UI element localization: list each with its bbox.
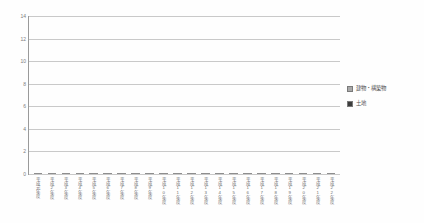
x-axis-tick-cell: 平成22年度 [324, 177, 338, 223]
x-axis-tick-cell: 平成11年度 [170, 177, 184, 223]
bar-column[interactable] [324, 16, 338, 174]
bar-segment-buildings[interactable] [62, 173, 71, 174]
bar-stack[interactable] [187, 173, 196, 174]
bar-stack[interactable] [313, 173, 322, 174]
bar-stack[interactable] [327, 173, 336, 174]
bar-stack[interactable] [117, 173, 126, 174]
bar-segment-buildings[interactable] [243, 173, 252, 174]
x-axis-tick-label: 平成2年度 [49, 177, 54, 198]
bar-column[interactable] [143, 16, 157, 174]
bar-column[interactable] [198, 16, 212, 174]
bar-column[interactable] [254, 16, 268, 174]
gridline [29, 174, 340, 175]
x-axis-tick-label: 平成8年度 [133, 177, 138, 198]
x-axis-tick-cell: 平成9年度 [142, 177, 156, 223]
bar-segment-buildings[interactable] [299, 173, 308, 174]
bar-column[interactable] [184, 16, 198, 174]
bar-column[interactable] [129, 16, 143, 174]
bar-segment-buildings[interactable] [257, 173, 266, 174]
bar-column[interactable] [157, 16, 171, 174]
x-axis-tick-label: 平成12年度 [189, 177, 194, 203]
legend-item[interactable]: 建物・構築物 [347, 86, 419, 92]
bar-column[interactable] [45, 16, 59, 174]
bar-segment-buildings[interactable] [173, 173, 182, 174]
bar-stack[interactable] [145, 173, 154, 174]
x-axis-tick-label: 平成3年度 [63, 177, 68, 198]
bar-stack[interactable] [89, 173, 98, 174]
bar-segment-buildings[interactable] [89, 173, 98, 174]
bar-segment-buildings[interactable] [201, 173, 210, 174]
bar-column[interactable] [240, 16, 254, 174]
x-axis-tick-cell: 平成20年度 [296, 177, 310, 223]
y-axis-tick-label: 0 [23, 172, 26, 177]
y-axis-tick-label: 6 [23, 104, 26, 109]
x-axis-tick-cell: 平成7年度 [114, 177, 128, 223]
x-axis-tick-cell: 平成13年度 [198, 177, 212, 223]
bar-stack[interactable] [34, 173, 43, 174]
x-axis-tick-label: 平成17年度 [259, 177, 264, 203]
x-axis-tick-label: 平成19年度 [287, 177, 292, 203]
bar-segment-buildings[interactable] [103, 173, 112, 174]
bar-segment-buildings[interactable] [187, 173, 196, 174]
bar-column[interactable] [31, 16, 45, 174]
bar-column[interactable] [226, 16, 240, 174]
x-axis-tick-label: 平成5年度 [91, 177, 96, 198]
bar-segment-buildings[interactable] [271, 173, 280, 174]
y-axis-tick-label: 12 [20, 36, 26, 41]
x-axis-tick-cell: 平成14年度 [212, 177, 226, 223]
bar-column[interactable] [282, 16, 296, 174]
bar-stack[interactable] [229, 173, 238, 174]
y-axis-tick-label: 4 [23, 126, 26, 131]
bar-stack[interactable] [48, 173, 57, 174]
bar-segment-buildings[interactable] [48, 173, 57, 174]
bar-stack[interactable] [62, 173, 71, 174]
bar-stack[interactable] [215, 173, 224, 174]
bar-stack[interactable] [299, 173, 308, 174]
bar-stack[interactable] [271, 173, 280, 174]
legend-item[interactable]: 土地 [347, 101, 419, 107]
y-axis-tick-label: 8 [23, 81, 26, 86]
x-axis-tick-cell: 平成6年度 [100, 177, 114, 223]
bar-stack[interactable] [159, 173, 168, 174]
x-axis-tick-label: 平成22年度 [329, 177, 334, 203]
bar-segment-buildings[interactable] [34, 173, 43, 174]
bar-segment-buildings[interactable] [117, 173, 126, 174]
bar-column[interactable] [310, 16, 324, 174]
x-axis-tick-cell: 平成3年度 [58, 177, 72, 223]
bar-segment-buildings[interactable] [229, 173, 238, 174]
bar-column[interactable] [115, 16, 129, 174]
x-axis-tick-cell: 平成10年度 [156, 177, 170, 223]
bar-column[interactable] [73, 16, 87, 174]
bar-column[interactable] [87, 16, 101, 174]
bar-segment-buildings[interactable] [159, 173, 168, 174]
x-axis-tick-label: 平成6年度 [105, 177, 110, 198]
bar-segment-buildings[interactable] [145, 173, 154, 174]
bar-segment-buildings[interactable] [215, 173, 224, 174]
bar-stack[interactable] [103, 173, 112, 174]
bar-segment-buildings[interactable] [131, 173, 140, 174]
bar-stack[interactable] [131, 173, 140, 174]
bar-segment-buildings[interactable] [285, 173, 294, 174]
bar-column[interactable] [59, 16, 73, 174]
bar-column[interactable] [296, 16, 310, 174]
x-axis-labels: 平成元年度平成2年度平成3年度平成4年度平成5年度平成6年度平成7年度平成8年度… [28, 177, 340, 223]
bar-segment-buildings[interactable] [313, 173, 322, 174]
bar-column[interactable] [212, 16, 226, 174]
bar-stack[interactable] [285, 173, 294, 174]
bar-segment-buildings[interactable] [76, 173, 85, 174]
bar-segment-buildings[interactable] [327, 173, 336, 174]
x-axis-tick-label: 平成4年度 [77, 177, 82, 198]
bar-column[interactable] [268, 16, 282, 174]
bar-stack[interactable] [201, 173, 210, 174]
x-axis-tick-label: 平成11年度 [175, 177, 180, 203]
bar-stack[interactable] [76, 173, 85, 174]
x-axis-tick-label: 平成13年度 [203, 177, 208, 203]
bar-stack[interactable] [173, 173, 182, 174]
bar-stack[interactable] [243, 173, 252, 174]
bar-stack[interactable] [257, 173, 266, 174]
chart-legend: 建物・構築物土地 [347, 86, 419, 116]
bar-column[interactable] [171, 16, 185, 174]
bar-column[interactable] [101, 16, 115, 174]
x-axis-tick-cell: 平成8年度 [128, 177, 142, 223]
bar-series-group [29, 16, 340, 174]
